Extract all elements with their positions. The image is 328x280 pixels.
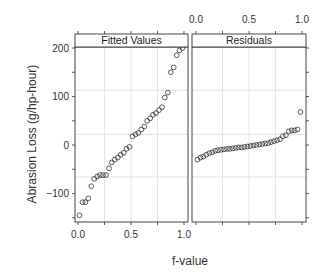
data-point (171, 65, 176, 70)
data-point (168, 70, 173, 75)
x-tick-label: 0.5 (124, 229, 138, 240)
x-tick-label: 0.0 (71, 229, 85, 240)
y-tick-label: 0 (63, 140, 69, 151)
data-point (266, 141, 271, 146)
data-point (292, 128, 297, 133)
data-point (298, 110, 303, 115)
x-tick-label: 1.0 (177, 229, 191, 240)
chart: Fitted Values0.00.51.0Residuals0.00.51.0… (0, 0, 328, 280)
strip-residuals: Residuals (226, 34, 272, 46)
data-point (145, 118, 150, 123)
data-point (278, 137, 283, 142)
x-tick-label-top: 0.5 (242, 14, 256, 25)
x-tick-label-top: 0.0 (189, 14, 203, 25)
data-point (295, 127, 300, 132)
x-axis-title: f-value (172, 254, 208, 268)
data-point (86, 196, 91, 201)
y-tick-label: 200 (52, 43, 69, 54)
data-point (162, 95, 167, 100)
data-point (160, 105, 165, 110)
data-point (139, 127, 144, 132)
y-tick-label: −100 (46, 188, 69, 199)
data-point (174, 53, 179, 58)
data-point (89, 184, 94, 189)
data-point (286, 129, 291, 134)
data-point (165, 90, 170, 95)
data-point (107, 166, 112, 171)
y-tick-label: 100 (52, 91, 69, 102)
y-axis-title: Abrasion Loss (g/hp-hour) (25, 65, 39, 204)
data-point (210, 150, 215, 155)
data-point (207, 151, 212, 156)
x-tick-label-top: 1.0 (295, 14, 309, 25)
strip-fitted-values: Fitted Values (101, 34, 162, 46)
data-point (109, 160, 114, 165)
data-point (269, 140, 274, 145)
data-point (77, 213, 82, 218)
data-point (142, 124, 147, 129)
